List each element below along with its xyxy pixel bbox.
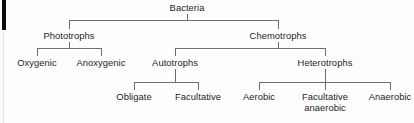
connector-to-phototrophs <box>69 20 70 29</box>
node-anoxygenic: Anoxygenic <box>77 58 126 69</box>
connector-autotrophs-bar <box>134 82 199 83</box>
connector-to-oxygenic <box>37 48 38 56</box>
connector-to-anoxygenic <box>101 48 102 56</box>
connector-root-bar <box>69 20 279 21</box>
node-anaerobic: Anaerobic <box>369 92 412 103</box>
connector-to-facultative-anaerobic <box>325 82 326 90</box>
connector-to-chemotrophs <box>278 20 279 29</box>
page-edge-marker <box>2 0 6 30</box>
connector-to-aerobic <box>259 82 260 90</box>
connector-to-autotrophs <box>175 48 176 56</box>
node-chemotrophs: Chemotrophs <box>250 31 307 42</box>
connector-heterotrophs-stem <box>325 69 326 82</box>
page-edge-line <box>3 30 4 123</box>
connector-to-anaerobic <box>390 82 391 90</box>
connector-chemotrophs-bar <box>175 48 326 49</box>
node-heterotrophs: Heterotrophs <box>298 58 353 69</box>
node-aerobic: Aerobic <box>243 92 275 103</box>
node-facultative: Facultative <box>175 92 221 103</box>
connector-autotrophs-stem <box>175 69 176 82</box>
node-phototrophs: Phototrophs <box>43 31 94 42</box>
node-obligate: Obligate <box>116 92 151 103</box>
connector-to-heterotrophs <box>325 48 326 56</box>
bacteria-classification-diagram: Bacteria Phototrophs Chemotrophs Oxygeni… <box>0 0 414 123</box>
connector-to-facultative <box>198 82 199 90</box>
node-facultative-anaerobic: Facultative anaerobic <box>302 92 348 113</box>
connector-to-obligate <box>134 82 135 90</box>
node-oxygenic: Oxygenic <box>17 58 56 69</box>
connector-phototrophs-bar <box>37 48 102 49</box>
node-autotrophs: Autotrophs <box>152 58 198 69</box>
node-bacteria: Bacteria <box>170 3 205 14</box>
